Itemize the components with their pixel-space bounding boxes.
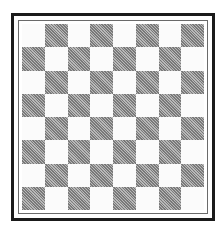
board-square-dark: [181, 24, 204, 47]
board-square-light: [68, 117, 91, 140]
board-square-dark: [45, 24, 68, 47]
board-square-light: [159, 164, 182, 187]
board-square-dark: [136, 71, 159, 94]
board-square-light: [68, 164, 91, 187]
board-square-dark: [159, 140, 182, 163]
board-square-dark: [90, 24, 113, 47]
board-square-dark: [113, 140, 136, 163]
board-square-light: [136, 140, 159, 163]
board-square-light: [90, 140, 113, 163]
board-square-dark: [90, 164, 113, 187]
board-square-dark: [22, 187, 45, 210]
board-square-light: [68, 71, 91, 94]
board-square-light: [90, 187, 113, 210]
board-square-light: [45, 47, 68, 70]
board-square-dark: [159, 94, 182, 117]
board-outer-frame: [11, 13, 215, 221]
board-square-dark: [68, 187, 91, 210]
board-square-light: [136, 47, 159, 70]
board-square-light: [45, 187, 68, 210]
board-square-light: [136, 94, 159, 117]
board-square-light: [113, 117, 136, 140]
board-square-light: [159, 24, 182, 47]
board-square-light: [113, 71, 136, 94]
board-square-light: [181, 140, 204, 163]
board-square-dark: [159, 187, 182, 210]
board-square-light: [181, 94, 204, 117]
board-square-dark: [159, 47, 182, 70]
board-square-dark: [181, 71, 204, 94]
board-square-light: [181, 47, 204, 70]
checkerboard: [22, 24, 204, 210]
board-square-dark: [90, 117, 113, 140]
board-square-light: [159, 117, 182, 140]
board-square-light: [22, 71, 45, 94]
board-square-dark: [22, 94, 45, 117]
board-square-dark: [68, 47, 91, 70]
board-square-dark: [45, 71, 68, 94]
board-square-dark: [45, 117, 68, 140]
board-square-light: [90, 94, 113, 117]
board-square-dark: [113, 47, 136, 70]
board-square-dark: [90, 71, 113, 94]
board-square-dark: [68, 94, 91, 117]
board-square-dark: [136, 117, 159, 140]
board-square-dark: [113, 94, 136, 117]
board-square-light: [159, 71, 182, 94]
board-square-light: [136, 187, 159, 210]
board-square-dark: [136, 24, 159, 47]
board-square-dark: [181, 164, 204, 187]
board-square-light: [22, 117, 45, 140]
board-square-dark: [113, 187, 136, 210]
board-square-light: [22, 24, 45, 47]
board-square-dark: [22, 140, 45, 163]
board-square-light: [181, 187, 204, 210]
board-square-dark: [136, 164, 159, 187]
board-square-dark: [68, 140, 91, 163]
board-square-light: [45, 94, 68, 117]
board-inner-frame: [18, 20, 208, 214]
board-square-light: [22, 164, 45, 187]
board-square-light: [90, 47, 113, 70]
board-square-dark: [181, 117, 204, 140]
board-square-dark: [22, 47, 45, 70]
board-square-light: [113, 24, 136, 47]
board-square-light: [45, 140, 68, 163]
board-square-dark: [45, 164, 68, 187]
board-square-light: [113, 164, 136, 187]
board-square-light: [68, 24, 91, 47]
